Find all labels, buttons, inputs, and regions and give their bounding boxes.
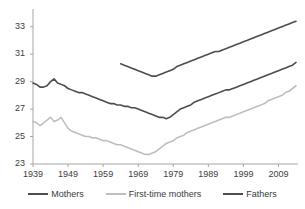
- y-axis-tick-label: 33: [9, 22, 25, 31]
- legend-swatch-icon: [223, 193, 243, 195]
- x-axis-tick-label: 1979: [158, 170, 188, 179]
- x-axis-tick-label: 1999: [228, 170, 258, 179]
- x-axis-tick-label: 1949: [53, 170, 83, 179]
- y-axis-tick-label: 29: [9, 77, 25, 86]
- series-line-mothers: [33, 62, 296, 118]
- legend-swatch-icon: [28, 193, 48, 195]
- y-axis-tick-label: 27: [9, 104, 25, 113]
- y-axis-tick-label: 23: [9, 159, 25, 168]
- legend-label: Fathers: [246, 190, 277, 199]
- chart-series-group: [33, 21, 296, 154]
- legend-item[interactable]: Mothers: [28, 190, 84, 199]
- legend-label: Mothers: [51, 190, 84, 199]
- x-axis-tick-label: 1989: [193, 170, 223, 179]
- chart-legend: MothersFirst-time mothersFathers: [0, 186, 305, 202]
- line-chart: 232527293133 193919491959196919791989199…: [0, 0, 305, 209]
- x-axis-tick-label: 1959: [88, 170, 118, 179]
- legend-item[interactable]: Fathers: [223, 190, 277, 199]
- x-axis-tick-label: 1969: [123, 170, 153, 179]
- y-axis-tick-label: 25: [9, 132, 25, 141]
- x-axis-tick-label: 1939: [18, 170, 48, 179]
- legend-swatch-icon: [106, 193, 126, 195]
- y-axis-tick-label: 31: [9, 49, 25, 58]
- series-line-fathers: [121, 21, 296, 76]
- chart-axes: [30, 9, 298, 167]
- series-line-first-time-mothers: [33, 86, 296, 155]
- x-axis-tick-label: 2009: [263, 170, 293, 179]
- legend-item[interactable]: First-time mothers: [106, 190, 202, 199]
- legend-label: First-time mothers: [129, 190, 202, 199]
